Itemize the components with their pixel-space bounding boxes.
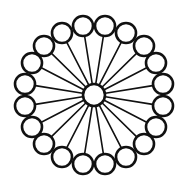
leaf-node-11[interactable] [73,154,93,174]
spoke-edge-16 [35,86,82,94]
leaf-node-9[interactable] [116,147,136,167]
spoke-edge-10 [96,106,104,153]
spoke-edge-5 [105,86,152,94]
leaf-node-8[interactable] [134,134,154,154]
leaf-node-2[interactable] [116,23,136,43]
radial-star-diagram [0,0,190,189]
leaf-node-20[interactable] [73,16,93,36]
spoke-edge-11 [85,106,93,153]
leaf-node-1[interactable] [95,16,115,36]
spoke-edge-20 [85,36,93,83]
star-graph-canvas [0,0,190,189]
leaf-node-14[interactable] [22,117,42,137]
leaf-node-12[interactable] [52,147,72,167]
leaf-node-16[interactable] [15,74,35,94]
center-hub-node[interactable] [83,84,105,106]
spoke-edge-15 [35,97,82,105]
leaf-node-15[interactable] [15,96,35,116]
leaf-node-5[interactable] [153,74,173,94]
spoke-edge-6 [105,97,152,105]
leaf-node-19[interactable] [52,23,72,43]
leaf-node-4[interactable] [146,53,166,73]
leaf-node-10[interactable] [95,154,115,174]
leaf-node-18[interactable] [34,36,54,56]
spoke-edge-1 [96,36,104,83]
leaf-node-6[interactable] [153,96,173,116]
